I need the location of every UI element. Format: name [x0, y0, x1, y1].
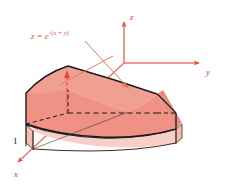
- x-axis-tick-label-one: 1: [13, 137, 18, 146]
- equation-base: z = e: [31, 31, 49, 41]
- y-axis-label: y: [206, 68, 210, 77]
- surface-equation-label: z = e-(x + y): [31, 30, 69, 40]
- x-axis-label: x: [14, 170, 18, 179]
- solid-region-diagram: [0, 0, 225, 189]
- z-axis-label: z: [130, 13, 134, 22]
- equation-exponent: -(x + y): [49, 30, 69, 36]
- figure-container: z = e-(x + y) z y x 1: [0, 0, 225, 189]
